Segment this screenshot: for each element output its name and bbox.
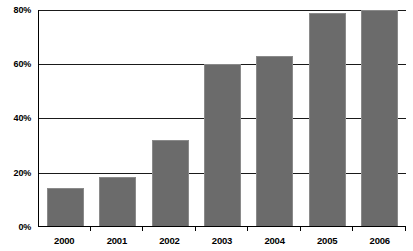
y-tick-label-0: 0% bbox=[18, 223, 31, 232]
y-tick-label-60: 60% bbox=[14, 60, 31, 69]
x-tick-2004 bbox=[248, 227, 301, 232]
x-tick-2005 bbox=[301, 227, 354, 232]
x-tick-2001 bbox=[91, 227, 144, 232]
bar-2003[interactable] bbox=[204, 64, 241, 226]
bar-2000[interactable] bbox=[47, 188, 84, 226]
y-tick-label-40: 40% bbox=[14, 114, 31, 123]
bar-slot-2002 bbox=[144, 10, 196, 226]
bar-chart: 80% 60% 40% 20% 0% bbox=[0, 0, 413, 251]
y-tick-label-80: 80% bbox=[14, 6, 31, 15]
x-tick-2002 bbox=[143, 227, 196, 232]
bar-slot-2005 bbox=[301, 10, 353, 226]
x-axis: 2000 2001 2002 2003 2004 2005 2006 bbox=[38, 234, 406, 248]
bar-2002[interactable] bbox=[152, 140, 189, 226]
x-axis-ticks bbox=[38, 227, 406, 232]
bar-slot-2004 bbox=[249, 10, 301, 226]
x-tick-2000 bbox=[38, 227, 91, 232]
bar-2001[interactable] bbox=[99, 177, 136, 226]
bar-2005[interactable] bbox=[309, 13, 346, 226]
x-tick-2003 bbox=[196, 227, 249, 232]
bar-slot-2003 bbox=[196, 10, 248, 226]
x-axis-label-2001: 2001 bbox=[91, 234, 144, 248]
y-tick-label-20: 20% bbox=[14, 169, 31, 178]
x-axis-label-2000: 2000 bbox=[38, 234, 91, 248]
y-axis: 80% 60% 40% 20% 0% bbox=[0, 0, 36, 251]
plot-area bbox=[38, 10, 406, 227]
bar-slot-2006 bbox=[354, 10, 406, 226]
x-axis-label-2003: 2003 bbox=[196, 234, 249, 248]
x-axis-label-2002: 2002 bbox=[143, 234, 196, 248]
bar-2004[interactable] bbox=[256, 56, 293, 226]
bar-2006[interactable] bbox=[361, 10, 398, 226]
x-tick-2006 bbox=[353, 227, 406, 232]
bar-slot-2000 bbox=[39, 10, 91, 226]
bars-layer bbox=[39, 10, 406, 226]
bar-slot-2001 bbox=[91, 10, 143, 226]
x-axis-label-2004: 2004 bbox=[248, 234, 301, 248]
x-axis-label-2005: 2005 bbox=[301, 234, 354, 248]
x-axis-label-2006: 2006 bbox=[353, 234, 406, 248]
